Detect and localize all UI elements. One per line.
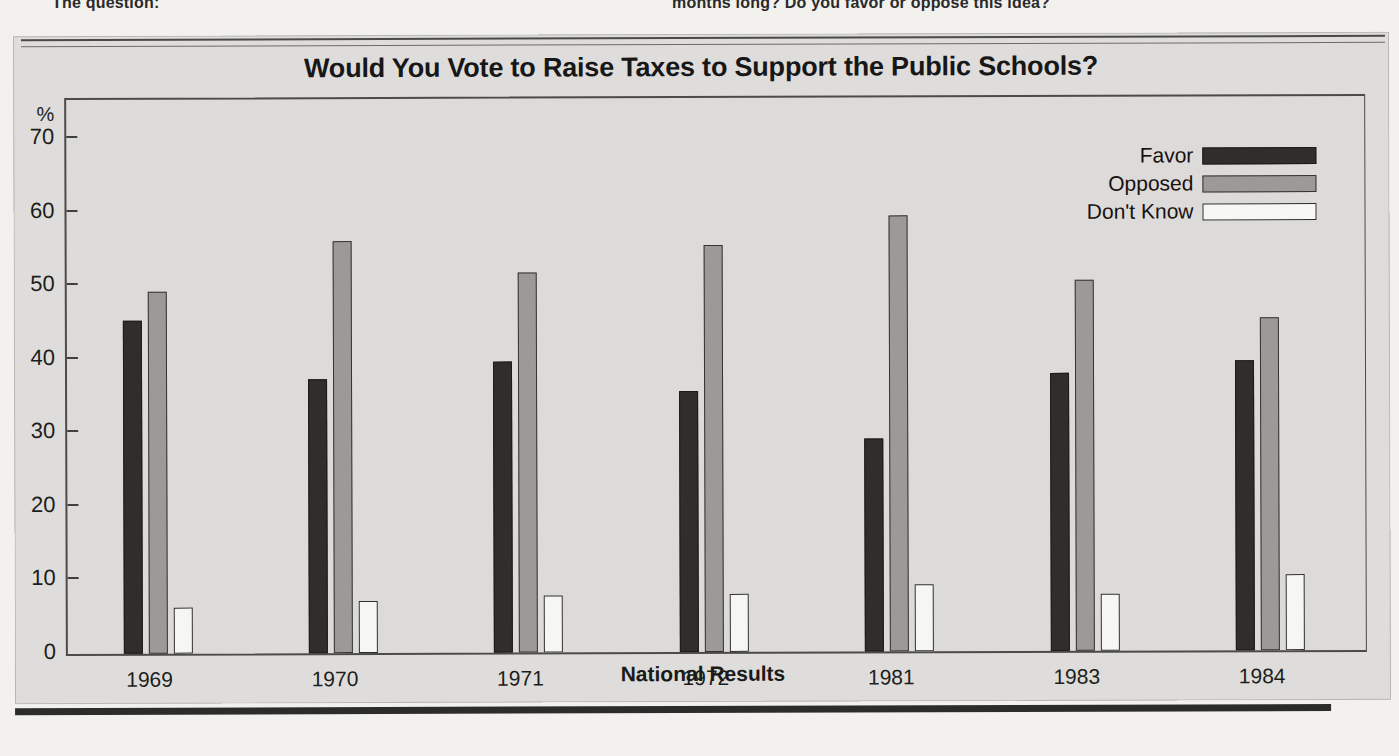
bar-opposed: [1260, 317, 1280, 650]
bar-opposed: [889, 215, 909, 651]
y-axis-tick-label: 40: [11, 345, 55, 371]
bar-favor: [493, 361, 513, 652]
y-axis-tick-label: 0: [12, 639, 56, 665]
bar-opposed: [704, 245, 724, 652]
y-axis-tick-label: 70: [10, 124, 54, 150]
y-axis-tick-label: 20: [11, 492, 55, 518]
bar-favor: [679, 391, 699, 652]
legend-swatch-opposed: [1202, 175, 1316, 192]
bar-group: 1970: [307, 99, 401, 653]
bar-opposed: [518, 272, 538, 652]
bar-favor: [1050, 373, 1070, 651]
bar-opposed: [333, 241, 353, 653]
y-axis-unit-label: %: [10, 103, 54, 126]
bar-group: 1969: [122, 100, 216, 654]
bar-opposed: [1074, 279, 1094, 650]
legend-swatch-favor: [1202, 147, 1316, 164]
legend-item-label: Favor: [1140, 143, 1194, 167]
bar-group: 1971: [493, 98, 587, 652]
y-axis-tick-label: 10: [12, 565, 56, 591]
y-axis-tick-label: 60: [10, 198, 54, 224]
bar-dk: [730, 594, 749, 652]
legend-item-label: Opposed: [1108, 171, 1193, 195]
y-axis-tick-label: 50: [11, 271, 55, 297]
bar-favor: [1235, 360, 1255, 650]
bar-group: 1981: [863, 97, 957, 651]
bar-dk: [173, 607, 192, 653]
bar-opposed: [147, 291, 167, 654]
legend-item: Favor: [1087, 144, 1317, 167]
page-text-fragment-right: months long? Do you favor or oppose this…: [672, 0, 1050, 12]
x-axis-caption: National Results: [15, 660, 1391, 688]
bar-favor: [865, 438, 885, 651]
bar-group: 1972: [678, 98, 772, 652]
bar-favor: [122, 321, 142, 654]
legend-item: Don't Know: [1087, 200, 1317, 223]
y-axis-tick-label: 30: [11, 418, 55, 444]
bar-dk: [359, 601, 378, 653]
legend-item: Opposed: [1087, 172, 1317, 195]
bar-dk: [915, 585, 934, 652]
chart-figure: Would You Vote to Raise Taxes to Support…: [13, 32, 1391, 704]
bar-dk: [544, 595, 563, 652]
plot-area: 010203040506070% 19691970197119721981198…: [64, 94, 1367, 656]
legend-swatch-dk: [1202, 203, 1316, 220]
chart-legend: FavorOpposedDon't Know: [1087, 144, 1317, 229]
bar-dk: [1100, 594, 1119, 651]
bar-dk: [1286, 575, 1305, 651]
chart-title: Would You Vote to Raise Taxes to Support…: [13, 50, 1389, 85]
legend-item-label: Don't Know: [1087, 199, 1194, 223]
page-text-fragment-left: The question:: [52, 0, 159, 12]
bar-favor: [308, 379, 328, 653]
